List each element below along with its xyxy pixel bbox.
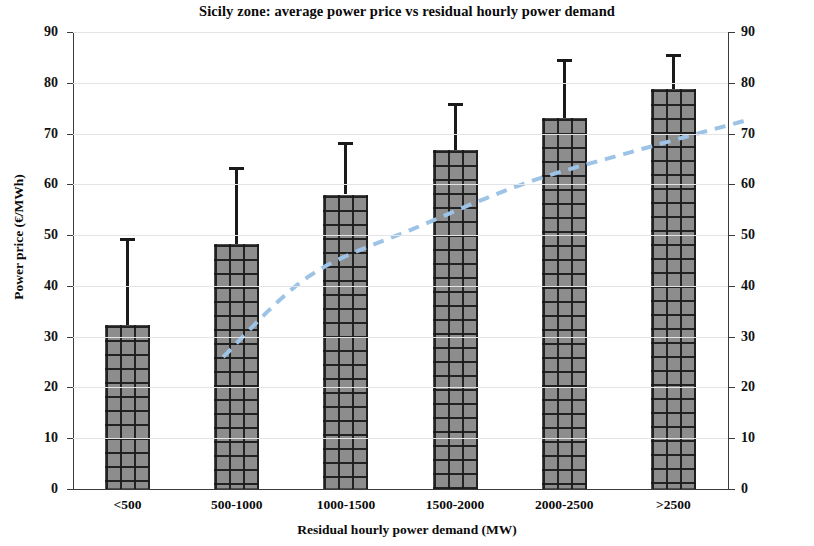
y-axis-right-tick-label: 20: [741, 380, 755, 394]
y-axis-right-tick: [729, 438, 735, 439]
y-axis-right-tick: [729, 235, 735, 236]
x-axis-line: [73, 489, 729, 490]
y-axis-left-tick-label: 60: [44, 177, 58, 191]
gridline: [73, 235, 728, 236]
error-bar-line: [235, 167, 238, 244]
y-axis-right-tick: [729, 387, 735, 388]
gridline: [73, 83, 728, 84]
y-axis-right-tick: [729, 337, 735, 338]
chart-container: Sicily zone: average power price vs resi…: [0, 0, 814, 546]
bar: [105, 325, 150, 489]
gridline: [73, 387, 728, 388]
gridline: [73, 184, 728, 185]
bar: [323, 195, 368, 490]
y-axis-right-tick-label: 90: [741, 25, 755, 39]
x-axis-category-label: >2500: [598, 497, 748, 513]
y-axis-left-tick: [67, 489, 73, 490]
gridline: [73, 286, 728, 287]
error-bar-cap: [338, 142, 353, 145]
y-axis-left-tick-label: 40: [44, 279, 58, 293]
error-bar-cap: [229, 167, 244, 170]
bar: [542, 118, 587, 489]
y-axis-left-tick-label: 70: [44, 127, 58, 141]
y-axis-right-tick: [729, 134, 735, 135]
x-axis-title: Residual hourly power demand (MW): [0, 522, 814, 538]
y-axis-left-tick-label: 50: [44, 228, 58, 242]
gridline: [73, 134, 728, 135]
error-bar-line: [454, 103, 457, 150]
y-axis-left-tick-label: 10: [44, 431, 58, 445]
chart-title: Sicily zone: average power price vs resi…: [0, 3, 814, 20]
y-axis-right-tick: [729, 184, 735, 185]
error-bar-cap: [666, 54, 681, 57]
error-bar-cap: [448, 103, 463, 106]
y-axis-right-tick-label: 10: [741, 431, 755, 445]
y-axis-left-tick-label: 90: [44, 25, 58, 39]
y-axis-right-tick-label: 70: [741, 127, 755, 141]
y-axis-right-line: [728, 32, 729, 489]
y-axis-right-tick-label: 0: [741, 482, 748, 496]
gridline: [73, 438, 728, 439]
error-bar-cap: [120, 238, 135, 241]
y-axis-right-tick: [729, 32, 735, 33]
error-bar-line: [344, 142, 347, 194]
y-axis-right-tick: [729, 83, 735, 84]
y-axis-left-tick-label: 80: [44, 76, 58, 90]
gridline: [73, 32, 728, 33]
plot-area: [73, 32, 728, 489]
y-axis-right-tick-label: 60: [741, 177, 755, 191]
bar: [214, 244, 259, 489]
y-axis-right-tick-label: 80: [741, 76, 755, 90]
y-axis-left-tick-label: 30: [44, 330, 58, 344]
y-axis-right-tick-label: 50: [741, 228, 755, 242]
y-axis-right-tick-label: 30: [741, 330, 755, 344]
y-axis-left-tick-label: 0: [51, 482, 58, 496]
y-axis-title: Power price (€/MWh): [11, 122, 27, 352]
y-axis-right-tick-label: 40: [741, 279, 755, 293]
y-axis-right-tick: [729, 286, 735, 287]
y-axis-right-tick: [729, 489, 735, 490]
y-axis-left-tick-label: 20: [44, 380, 58, 394]
error-bar-line: [126, 238, 129, 325]
error-bar-cap: [557, 59, 572, 62]
gridline: [73, 337, 728, 338]
error-bar-line: [563, 59, 566, 118]
bar: [651, 89, 696, 489]
